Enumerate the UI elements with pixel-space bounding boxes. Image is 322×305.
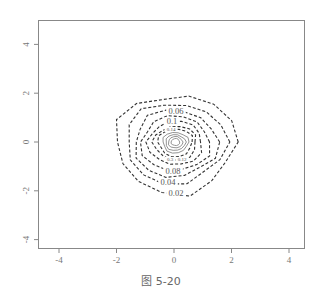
y-tick-label: -4 (21, 235, 31, 243)
plot-frame (39, 21, 305, 249)
contour-label: 0.1 (167, 116, 178, 126)
contour-chart: -4-2024 -4-2024 0.060.10.140.30.120.080.… (0, 0, 322, 305)
x-tick-label: 4 (287, 255, 292, 265)
y-tick-label: 4 (21, 42, 31, 47)
contour-line (171, 138, 180, 145)
contour-label: 0.14 (167, 127, 176, 132)
x-tick-label: 2 (229, 255, 234, 265)
x-axis: -4-2024 (55, 249, 292, 266)
y-tick-label: 0 (21, 139, 31, 144)
contour-label: 0.3 (167, 157, 174, 162)
y-axis: -4-2024 (21, 42, 39, 244)
y-tick-label: -2 (21, 187, 31, 195)
x-tick-label: -4 (55, 255, 63, 265)
contour-label: 0.08 (166, 166, 181, 176)
x-tick-label: -2 (113, 255, 121, 265)
x-tick-label: 0 (172, 255, 177, 265)
contour-label: 0.04 (161, 177, 177, 187)
figure-caption: 图 5-20 (0, 272, 322, 288)
contour-label: 0.06 (169, 106, 184, 116)
y-tick-label: 2 (21, 91, 31, 96)
contour-label: 0.12 (178, 157, 187, 162)
contour-label: 0.02 (169, 188, 184, 198)
